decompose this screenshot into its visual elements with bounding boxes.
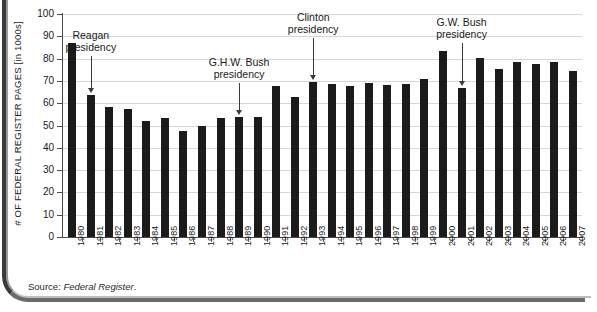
annotation-arrow-stem bbox=[462, 43, 463, 81]
annotation-label-line2: presidency bbox=[214, 68, 265, 80]
bar bbox=[513, 62, 521, 237]
annotation-arrow-stem bbox=[239, 83, 240, 110]
bar bbox=[161, 118, 169, 237]
x-tick-label: 1996 bbox=[373, 226, 383, 246]
y-tick-label: 90 bbox=[28, 30, 54, 41]
x-tick-label: 1992 bbox=[299, 226, 309, 246]
y-tick-label: 10 bbox=[28, 209, 54, 220]
bar bbox=[142, 121, 150, 237]
bar bbox=[402, 84, 410, 237]
annotation-arrow-head bbox=[310, 75, 316, 80]
bar bbox=[235, 117, 243, 237]
gridline bbox=[63, 215, 582, 216]
y-tick-label: 30 bbox=[28, 164, 54, 175]
x-tick-label: 2001 bbox=[466, 226, 476, 246]
y-tick-label: 0 bbox=[28, 231, 54, 242]
x-tick-label: 1985 bbox=[169, 226, 179, 246]
x-tick-label: 1998 bbox=[410, 226, 420, 246]
annotation-label-line1: G.H.W. Bush bbox=[209, 56, 270, 68]
y-tick-mark bbox=[57, 36, 62, 37]
x-tick-label: 1984 bbox=[150, 226, 160, 246]
bar bbox=[309, 82, 317, 237]
y-tick-mark bbox=[57, 14, 62, 15]
annotation-arrow-stem bbox=[91, 56, 92, 88]
y-tick-label: 60 bbox=[28, 97, 54, 108]
x-tick-label: 1999 bbox=[428, 226, 438, 246]
y-tick-label: 70 bbox=[28, 75, 54, 86]
x-tick-label: 1993 bbox=[317, 226, 327, 246]
bar bbox=[346, 86, 354, 237]
annotation-arrow-head bbox=[459, 81, 465, 86]
y-tick-label: 80 bbox=[28, 53, 54, 64]
bar bbox=[495, 69, 503, 237]
bar bbox=[291, 97, 299, 237]
x-tick-label: 2002 bbox=[484, 226, 494, 246]
annotation-arrow-stem bbox=[313, 38, 314, 75]
bar bbox=[476, 58, 484, 238]
y-tick-mark bbox=[57, 59, 62, 60]
y-tick-mark bbox=[57, 126, 62, 127]
y-tick-mark bbox=[57, 81, 62, 82]
y-tick-label: 50 bbox=[28, 120, 54, 131]
x-tick-label: 1988 bbox=[225, 226, 235, 246]
annotation-label-line1: G.W. Bush bbox=[436, 16, 486, 28]
bar bbox=[217, 118, 225, 237]
x-tick-label: 1983 bbox=[132, 226, 142, 246]
annotation-label-line1: Clinton bbox=[297, 11, 330, 23]
source-suffix: . bbox=[134, 281, 137, 292]
y-tick-mark bbox=[57, 103, 62, 104]
y-axis-title: # OF FEDERAL REGISTER PAGES [in 1000s] bbox=[12, 0, 23, 249]
x-tick-label: 2004 bbox=[521, 226, 531, 246]
bar bbox=[179, 131, 187, 237]
gridline bbox=[63, 192, 582, 193]
gridline bbox=[63, 103, 582, 104]
x-tick-label: 2003 bbox=[503, 226, 513, 246]
bar bbox=[105, 107, 113, 237]
annotation-arrow-head bbox=[88, 88, 94, 93]
source-note: Source: Federal Register. bbox=[28, 281, 136, 292]
bar bbox=[532, 64, 540, 237]
x-tick-label: 2007 bbox=[577, 226, 587, 246]
bar bbox=[87, 95, 95, 237]
gridline bbox=[63, 126, 582, 127]
bar bbox=[569, 71, 577, 237]
x-tick-label: 1989 bbox=[243, 226, 253, 246]
y-tick-mark bbox=[57, 237, 62, 238]
gridline bbox=[63, 148, 582, 149]
y-tick-mark bbox=[57, 170, 62, 171]
bar bbox=[420, 79, 428, 237]
annotation-label-line1: Reagan bbox=[72, 29, 109, 41]
bar bbox=[550, 62, 558, 237]
bar bbox=[272, 86, 280, 237]
bar bbox=[439, 51, 447, 237]
gridline bbox=[63, 81, 582, 82]
bar bbox=[383, 85, 391, 237]
bar bbox=[328, 84, 336, 237]
bar bbox=[198, 126, 206, 238]
gridline bbox=[63, 36, 582, 37]
x-tick-label: 2005 bbox=[540, 226, 550, 246]
bar bbox=[365, 83, 373, 237]
bar bbox=[124, 109, 132, 237]
y-tick-mark bbox=[57, 192, 62, 193]
x-tick-label: 1995 bbox=[354, 226, 364, 246]
x-tick-label: 1980 bbox=[76, 226, 86, 246]
x-tick-label: 1981 bbox=[95, 226, 105, 246]
bar bbox=[254, 117, 262, 237]
y-tick-label: 40 bbox=[28, 142, 54, 153]
bar bbox=[68, 43, 76, 237]
y-tick-label: 20 bbox=[28, 186, 54, 197]
x-tick-label: 1982 bbox=[113, 226, 123, 246]
source-publication: Federal Register bbox=[63, 281, 133, 292]
x-tick-label: 1986 bbox=[187, 226, 197, 246]
source-prefix: Source: bbox=[28, 281, 63, 292]
x-tick-label: 2006 bbox=[558, 226, 568, 246]
gridline bbox=[63, 170, 582, 171]
annotation-arrow-head bbox=[236, 110, 242, 115]
gridline bbox=[63, 59, 582, 60]
y-tick-mark bbox=[57, 148, 62, 149]
x-tick-label: 1991 bbox=[280, 226, 290, 246]
annotation-label-line2: presidency bbox=[288, 23, 339, 35]
annotation-label-line2: presidency bbox=[436, 28, 487, 40]
y-tick-label: 100 bbox=[28, 8, 54, 19]
